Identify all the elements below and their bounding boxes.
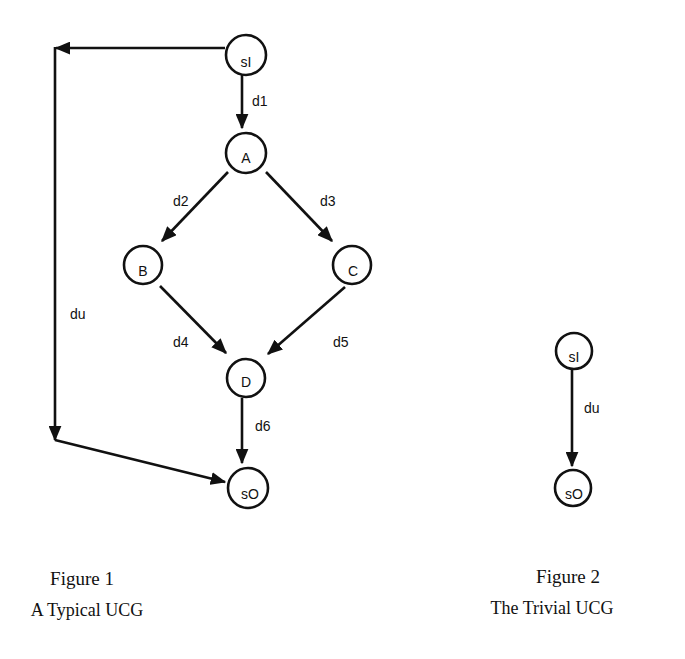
svg-text:sO: sO [565,486,583,502]
svg-text:sI: sI [569,349,580,365]
node-C: C [333,246,371,284]
diagram-canvas: d1 d2 d3 d4 d5 d6 du sI A B C D sO du sI [0,0,685,659]
svg-text:D: D [241,374,251,390]
figure2-number: Figure 2 [504,566,632,588]
label-d2: d2 [173,193,189,209]
label-d6: d6 [255,418,271,434]
figure1-edge-labels: d1 d2 d3 d4 d5 d6 du [70,93,349,434]
svg-text:C: C [348,263,358,279]
node-A: A [226,133,266,173]
figure1-edges [55,47,345,482]
svg-text:sO: sO [241,486,259,502]
figure1-number: Figure 1 [2,568,162,590]
svg-text:sI: sI [241,54,252,70]
edge-du-bottom [55,440,225,482]
label-d5: d5 [333,334,349,350]
figure2-graph: du sI sO [555,333,600,506]
figure2-title: The Trivial UCG [472,598,632,619]
label-du-trivial: du [584,400,600,416]
svg-text:A: A [241,150,251,166]
node-sI-trivial: sI [556,333,592,369]
label-d4: d4 [173,334,189,350]
label-d1: d1 [252,93,268,109]
node-B: B [124,246,162,284]
figure1-title: A Typical UCG [12,600,162,621]
figure1-caption: Figure 1 A Typical UCG [12,568,162,621]
node-sO: sO [228,468,268,508]
label-du: du [70,306,86,322]
node-D: D [227,359,265,397]
svg-text:B: B [138,263,147,279]
figure2-caption: Figure 2 The Trivial UCG [472,566,632,619]
label-d3: d3 [320,193,336,209]
edge-d4 [160,286,226,353]
edge-d2 [162,172,228,241]
node-sI: sI [226,35,266,75]
node-sO-trivial: sO [555,470,591,506]
